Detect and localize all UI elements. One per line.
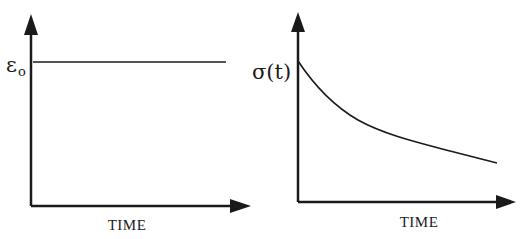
left-y-axis-arrow-icon [24,14,38,35]
stress-relaxation-curve [298,61,497,163]
strain-symbol: ε [6,53,17,77]
right-x-axis-arrow-icon [496,195,516,209]
right-plot: σ(t) TIME [252,12,516,230]
left-plot: ε o TIME [6,14,251,233]
diagram-canvas: ε o TIME σ(t) TIME [0,0,523,239]
strain-subscript: o [18,64,26,79]
right-x-label: TIME [400,214,439,230]
stress-label: σ(t) [252,60,291,84]
right-y-axis-arrow-icon [291,12,305,32]
left-x-label: TIME [108,217,147,233]
left-x-axis-arrow-icon [230,199,251,213]
